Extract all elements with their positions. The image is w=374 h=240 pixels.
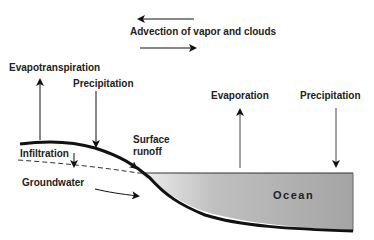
advection-label: Advection of vapor and clouds [130,26,276,37]
evaporation-label: Evaporation [211,90,269,101]
groundwater-label: Groundwater [22,177,84,188]
ocean-label: Ocean [273,190,314,201]
water-table-line [18,160,138,173]
infiltration-label: Infiltration [20,148,69,159]
surface-runoff-label-line1: Surface [133,134,170,145]
groundwater-arrow [95,189,138,196]
precipitation-ocean-label: Precipitation [300,90,361,101]
surface-runoff-label-line2: runoff [133,146,162,157]
precipitation-land-label: Precipitation [73,78,134,89]
evapotranspiration-label: Evapotranspiration [9,62,100,73]
